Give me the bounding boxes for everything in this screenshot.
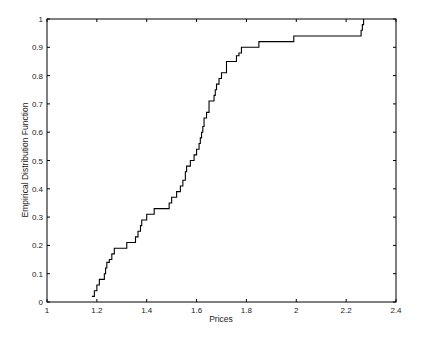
y-tick-label: 0.3	[32, 213, 44, 222]
x-tick-label: 1.2	[91, 306, 103, 315]
x-tick-label: 1.8	[241, 306, 253, 315]
y-tick-label: 0.5	[32, 157, 44, 166]
x-tick-label: 1	[45, 306, 50, 315]
x-tick-label: 2.4	[390, 306, 402, 315]
y-tick-label: 1	[39, 15, 44, 24]
y-tick-label: 0.6	[32, 128, 44, 137]
y-tick-label: 0.1	[32, 270, 44, 279]
y-tick-label: 0.7	[32, 100, 44, 109]
x-tick-label: 1.4	[141, 306, 153, 315]
y-tick-label: 0.2	[32, 241, 44, 250]
y-tick-label: 0.9	[32, 43, 44, 52]
y-axis-label: Empirical Distribution Function	[20, 102, 30, 217]
ecdf-chart: 11.21.41.61.822.22.4 00.10.20.30.40.50.6…	[0, 0, 422, 338]
x-tick-label: 2	[294, 306, 299, 315]
plot-area	[47, 19, 396, 302]
y-tick-label: 0.4	[32, 185, 44, 194]
x-tick-label: 2.2	[341, 306, 353, 315]
y-tick-label: 0.8	[32, 72, 44, 81]
x-tick-label: 1.6	[191, 306, 203, 315]
y-tick-label: 0	[39, 298, 44, 307]
x-axis-label: Prices	[209, 314, 233, 324]
